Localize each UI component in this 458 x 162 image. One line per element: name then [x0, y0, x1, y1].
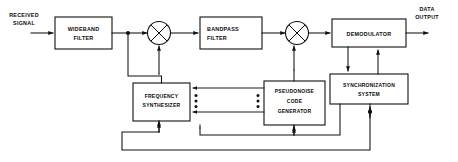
block-pseudonoise-code-generator[interactable]: PSEUDONOISE CODE GENERATOR	[264, 81, 325, 125]
pseudonoise-code-generator-label-line2: CODE	[287, 98, 303, 104]
bus-dot-right-3	[257, 105, 260, 108]
bandpass-filter-label-line2: FILTER	[207, 35, 227, 41]
block-diagram-canvas: RECEIVED SIGNAL WIDEBAND FILTER BANDPASS…	[0, 0, 458, 162]
pseudonoise-code-generator-label-line3: GENERATOR	[278, 108, 312, 114]
block-wideband-filter[interactable]: WIDEBAND FILTER	[55, 17, 112, 49]
bus-pn-generator-to-frequency-synthesizer	[193, 88, 264, 112]
block-demodulator[interactable]: DEMODULATOR	[332, 19, 406, 47]
wideband-filter-label-line2: FILTER	[74, 35, 94, 41]
demodulator-label: DEMODULATOR	[347, 31, 392, 37]
synchronization-system-label-line2: SYSTEM	[358, 91, 380, 97]
frequency-synthesizer-label-line2: SYNTHESIZER	[143, 102, 181, 108]
data-output-label-line2: OUTPUT	[415, 14, 439, 20]
wires-demodulator-synchronization	[348, 47, 378, 74]
pseudonoise-code-generator-label-line1: PSEUDONOISE	[275, 88, 315, 94]
wideband-filter-box[interactable]	[55, 17, 112, 49]
bandpass-filter-box[interactable]	[200, 17, 262, 49]
block-diagram-svg: RECEIVED SIGNAL WIDEBAND FILTER BANDPASS…	[0, 0, 458, 162]
mixer-2[interactable]	[286, 22, 309, 45]
bus-dot-left-2	[195, 100, 198, 103]
received-signal-label-line1: RECEIVED	[9, 12, 39, 18]
bus-dot-right-1	[257, 94, 260, 97]
received-signal-label-line2: SIGNAL	[13, 20, 35, 26]
data-output: DATA OUTPUT	[406, 6, 439, 33]
received-signal-input: RECEIVED SIGNAL	[9, 12, 53, 33]
block-bandpass-filter[interactable]: BANDPASS FILTER	[200, 17, 262, 49]
bus-dot-right-2	[257, 100, 260, 103]
mixer-1[interactable]	[148, 22, 171, 45]
bus-dot-left-1	[195, 94, 198, 97]
synchronization-system-label-line1: SYNCHRONIZATION	[343, 82, 395, 88]
synchronization-system-box[interactable]	[330, 74, 408, 104]
block-synchronization-system[interactable]: SYNCHRONIZATION SYSTEM	[330, 74, 408, 104]
bandpass-filter-label-line1: BANDPASS	[207, 26, 239, 32]
block-frequency-synthesizer[interactable]: FREQUENCY SYNTHESIZER	[133, 83, 190, 121]
bus-dot-left-3	[195, 105, 198, 108]
frequency-synthesizer-label-line1: FREQUENCY	[145, 93, 179, 99]
data-output-label-line1: DATA	[419, 6, 434, 12]
wideband-filter-label-line1: WIDEBAND	[68, 26, 100, 32]
